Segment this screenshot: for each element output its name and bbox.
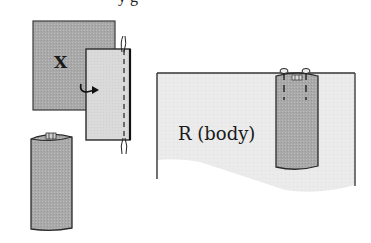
- fabric-tube: [31, 134, 72, 230]
- caption-fragment: y g: [118, 0, 138, 6]
- tube-seam-tab: [46, 133, 56, 139]
- panel-tube: [31, 133, 72, 230]
- label-x: X: [54, 52, 68, 72]
- pinned-tube: [276, 73, 318, 169]
- sewing-diagram: y g X: [0, 0, 371, 243]
- panel-body: R (body): [157, 69, 355, 192]
- label-r-body: R (body): [178, 123, 255, 144]
